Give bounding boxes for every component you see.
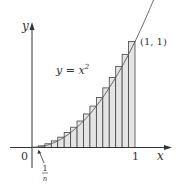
- point-label: (1, 1): [140, 36, 167, 47]
- width-label-denominator: n: [43, 175, 48, 183]
- riemann-sum-figure: y x 0 1 (1, 1) y = x2 1 n: [0, 0, 183, 191]
- y-axis-arrow-icon: [30, 22, 35, 30]
- width-pointer-arrow-icon: [38, 150, 42, 155]
- origin-label: 0: [21, 150, 28, 163]
- x-axis-arrow-icon: [164, 145, 172, 150]
- riemann-rectangle: [51, 141, 57, 148]
- x-axis-label: x: [157, 149, 164, 163]
- riemann-rectangle: [122, 54, 128, 147]
- y-axis-label: y: [21, 19, 29, 33]
- riemann-rectangle: [129, 42, 135, 148]
- riemann-rectangle: [84, 114, 90, 148]
- plot-area: y x 0 1 (1, 1) y = x2 1 n: [0, 0, 183, 191]
- riemann-rectangle: [77, 121, 83, 148]
- riemann-rectangles: [32, 42, 135, 148]
- riemann-rectangle: [109, 78, 115, 148]
- x-tick-label-1: 1: [132, 150, 139, 163]
- riemann-rectangle: [116, 66, 122, 147]
- riemann-rectangle: [103, 88, 109, 148]
- width-label-numerator: 1: [42, 164, 47, 173]
- curve-label: y = x2: [55, 63, 90, 77]
- curve-label-exponent: 2: [84, 63, 90, 71]
